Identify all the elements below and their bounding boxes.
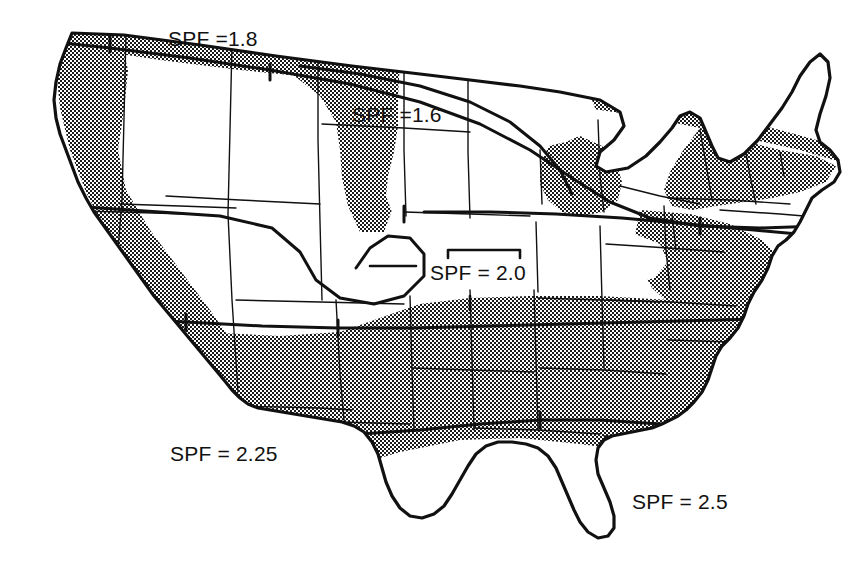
unshaded-band-mid-continent bbox=[386, 212, 668, 304]
us-map-svg bbox=[0, 0, 867, 581]
contour-label-spf-1-8: SPF =1.8 bbox=[168, 28, 258, 49]
contour-label-spf-1-6: SPF =1.6 bbox=[352, 104, 442, 125]
contour-label-spf-2-0: SPF = 2.0 bbox=[430, 262, 526, 283]
shaded-band-great-lakes bbox=[540, 136, 622, 216]
contour-label-spf-2-25: SPF = 2.25 bbox=[170, 443, 278, 464]
contour-label-spf-2-5: SPF = 2.5 bbox=[632, 491, 728, 512]
shaded-band-south bbox=[40, 296, 867, 492]
spf-contour-map-figure: SPF =1.8 SPF =1.6 SPF = 2.0 SPF = 2.25 S… bbox=[0, 0, 867, 581]
unshaded-band-florida bbox=[640, 432, 726, 542]
